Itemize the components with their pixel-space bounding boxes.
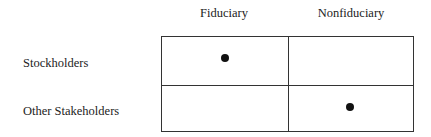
dot-marker-stockholders-fiduciary — [221, 54, 229, 62]
column-header-fiduciary: Fiduciary — [161, 6, 287, 21]
column-header-nonfiduciary: Nonfiduciary — [288, 6, 414, 21]
column-divider — [288, 37, 289, 131]
dot-marker-other-stakeholders-nonfiduciary — [346, 103, 354, 111]
row-label-stockholders: Stockholders — [23, 56, 88, 71]
row-label-other-stakeholders: Other Stakeholders — [23, 104, 119, 119]
matrix-grid — [161, 36, 414, 132]
row-divider — [162, 85, 413, 86]
